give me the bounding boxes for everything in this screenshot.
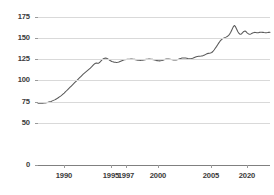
x-tick-label: 2005 xyxy=(203,171,220,180)
y-tick-label: 125 xyxy=(18,55,30,63)
y-tick-mark xyxy=(35,123,38,124)
x-tick-mark xyxy=(111,165,112,168)
x-tick-label: 2020 xyxy=(239,171,256,180)
gridline xyxy=(38,80,270,81)
y-tick-label: 75 xyxy=(22,98,30,106)
x-tick-mark xyxy=(64,165,65,168)
y-tick-label: 175 xyxy=(18,13,30,21)
y-tick-mark xyxy=(35,38,38,39)
y-tick-label: 0 xyxy=(26,161,30,169)
y-tick-label: 100 xyxy=(18,76,30,84)
y-tick-label: 150 xyxy=(18,34,30,42)
line-chart: 17515012510075500 1990199519972000200520… xyxy=(0,0,274,195)
y-tick-mark xyxy=(35,17,38,18)
y-axis: 17515012510075500 xyxy=(0,0,34,195)
gridline xyxy=(38,123,270,124)
y-tick-mark xyxy=(35,165,38,166)
series-line-series-1 xyxy=(38,17,270,165)
gridline xyxy=(38,59,270,60)
gridline xyxy=(38,38,270,39)
x-tick-mark xyxy=(247,165,248,168)
x-tick-mark xyxy=(126,165,127,168)
x-tick-mark xyxy=(158,165,159,168)
x-axis: 199019951997200020052020 xyxy=(0,171,274,185)
plot-area xyxy=(38,17,270,165)
x-tick-mark xyxy=(211,165,212,168)
x-tick-label: 1997 xyxy=(118,171,135,180)
y-tick-mark xyxy=(35,59,38,60)
x-tick-label: 1990 xyxy=(56,171,73,180)
x-axis-line xyxy=(38,165,270,166)
y-tick-mark xyxy=(35,80,38,81)
y-tick-mark xyxy=(35,102,38,103)
x-tick-label: 2000 xyxy=(150,171,167,180)
gridline xyxy=(38,17,270,18)
gridline xyxy=(38,102,270,103)
y-tick-label: 50 xyxy=(22,119,30,127)
